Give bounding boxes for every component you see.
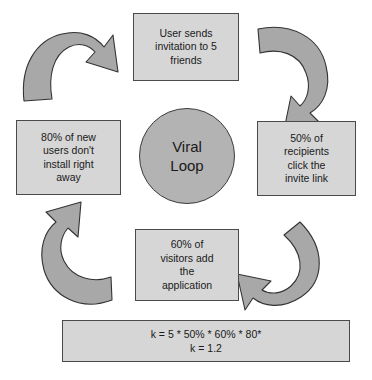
center-label-line2: Loop — [170, 156, 203, 175]
node-user-sends-invitation: User sends invitation to 5 friends — [133, 13, 239, 81]
node-recipients-click-invite: 50% of recipients click the invite link — [257, 121, 356, 196]
arrow-curved-up-right-icon — [23, 32, 118, 101]
arrow-curved-down-left-icon — [258, 27, 328, 130]
arrow-curved-up-left-icon — [42, 202, 112, 304]
center-viral-loop-node: Viral Loop — [139, 108, 235, 204]
arrow-curved-left-icon — [237, 222, 319, 310]
node-users-dont-install: 80% of new users don't install right awa… — [16, 120, 121, 195]
viral-loop-diagram: User sends invitation to 5 friends 50% o… — [0, 0, 372, 380]
node-visitors-add-application: 60% of visitors add the application — [135, 229, 239, 301]
center-label-line1: Viral — [172, 137, 202, 156]
formula-box: k = 5 * 50% * 60% * 80* k = 1.2 — [62, 320, 350, 362]
